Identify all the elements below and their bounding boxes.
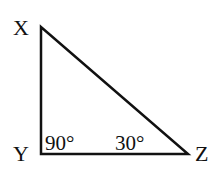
vertex-label-x: X <box>13 15 29 40</box>
triangle-diagram: X Y Z 90° 30° <box>0 0 223 170</box>
angle-label-y: 90° <box>45 131 74 155</box>
angle-label-z: 30° <box>115 131 144 155</box>
vertex-label-y: Y <box>13 141 29 166</box>
vertex-label-z: Z <box>195 141 208 166</box>
